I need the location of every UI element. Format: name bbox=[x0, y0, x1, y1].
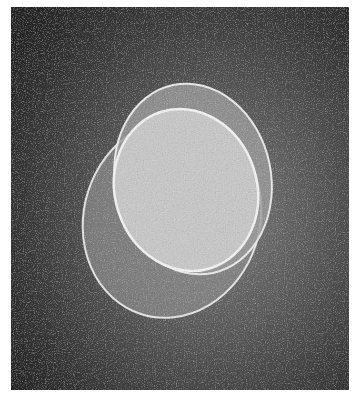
ellipses-figure bbox=[11, 7, 349, 390]
micrograph-image bbox=[11, 7, 349, 390]
